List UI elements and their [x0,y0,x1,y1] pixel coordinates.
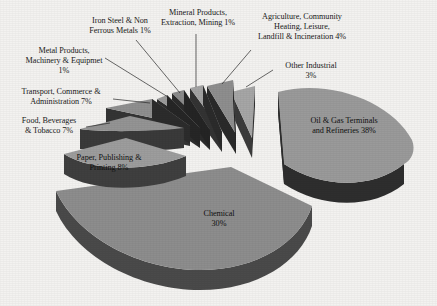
label-transport: Transport, Commerce & Administration 7% [8,87,114,107]
label-mineral-products: Mineral Products, Extraction, Mining 1% [150,8,246,28]
label-oil-gas: Oil & Gas Terminals and Refineries 38% [299,116,389,136]
label-chemical: Chemical 30% [188,209,250,229]
label-paper-publishing: Paper, Publishing & Printing 8% [63,153,155,173]
pie-slice-oil-gas [278,88,414,203]
label-metal-products: Metal Products, Machinery & Equipmet 1% [15,46,113,77]
pie-chart-figure: Iron Steel & Non Ferrous Metals 1% Miner… [0,0,437,306]
leader-line-metal-products [105,58,168,97]
leader-line-iron-steel [136,40,180,93]
label-food-beverages: Food, Beverages & Tobacco 7% [10,116,88,136]
label-agriculture: Agriculture, Community Heating, Leisure,… [243,12,361,43]
label-other-industrial: Other Industrial 3% [269,61,353,81]
leader-line-agriculture [222,50,251,84]
pie-slice-chemical [56,167,312,290]
